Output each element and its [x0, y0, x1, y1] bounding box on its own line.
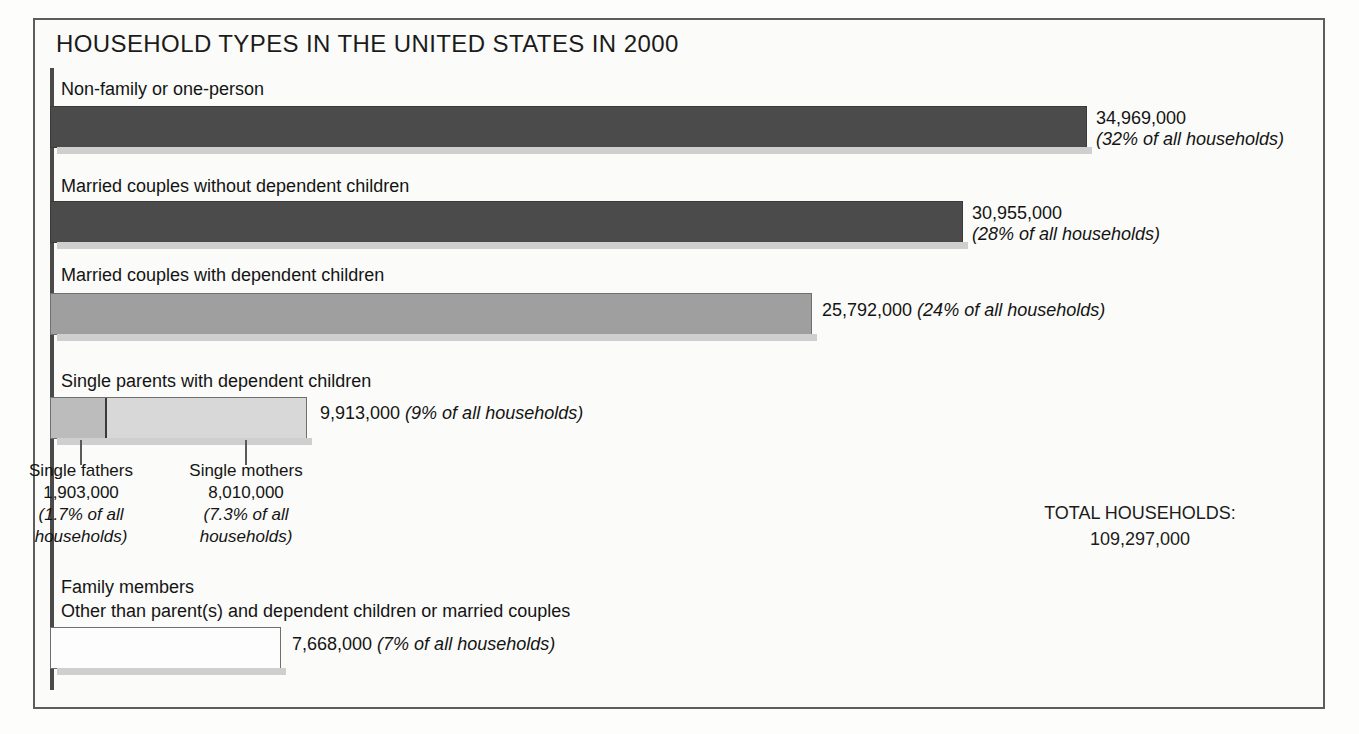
bar-value-number-married-with: 25,792,000 [822, 300, 912, 320]
bar-value-number-family-members: 7,668,000 [292, 634, 372, 654]
sub-label-single-fathers-name: Single fathers [10, 460, 152, 482]
bar-label-married-with: Married couples with dependent children [61, 265, 384, 286]
sub-label-single-mothers-percent-line1: (7.3% of all [175, 504, 317, 526]
bar-non-family [50, 106, 1087, 148]
page-title: HOUSEHOLD TYPES IN THE UNITED STATES IN … [56, 30, 679, 58]
total-households: TOTAL HOUSEHOLDS: 109,297,000 [1010, 500, 1270, 552]
bar-married-without [50, 201, 963, 243]
bar-value-percent-married-with: (24% of all households) [917, 300, 1105, 320]
bar-value-number-non-family: 34,969,000 [1096, 108, 1186, 128]
total-households-label: TOTAL HOUSEHOLDS: [1010, 500, 1270, 526]
bar-value-number-single-parents: 9,913,000 [320, 403, 400, 423]
sub-label-single-fathers-percent-line2: households) [10, 526, 152, 548]
bar-value-married-without: 30,955,000 (28% of all households) [972, 203, 1160, 245]
sub-label-single-mothers: Single mothers 8,010,000 (7.3% of all ho… [175, 460, 317, 548]
bar-single-parents [50, 397, 307, 439]
bar-value-non-family: 34,969,000 (32% of all households) [1096, 108, 1284, 150]
bar-married-with [50, 293, 812, 335]
bar-value-percent-single-parents: (9% of all households) [405, 403, 583, 423]
total-households-value: 109,297,000 [1010, 526, 1270, 552]
bar-value-percent-family-members: (7% of all households) [377, 634, 555, 654]
bar-value-number-married-without: 30,955,000 [972, 203, 1062, 223]
bar-label-non-family: Non-family or one-person [61, 79, 264, 100]
category-axis [50, 68, 54, 690]
bar-family-members [50, 627, 281, 669]
sub-label-single-mothers-value: 8,010,000 [175, 482, 317, 504]
sub-label-single-fathers-percent-line1: (1.7% of all [10, 504, 152, 526]
bar-value-family-members: 7,668,000 (7% of all households) [292, 634, 555, 655]
bar-value-percent-non-family: (32% of all households) [1096, 129, 1284, 150]
bar-value-married-with: 25,792,000 (24% of all households) [822, 300, 1105, 321]
sub-label-single-fathers-value: 1,903,000 [10, 482, 152, 504]
bar-label-married-without: Married couples without dependent childr… [61, 176, 409, 197]
bar-value-single-parents: 9,913,000 (9% of all households) [320, 403, 583, 424]
sub-label-single-mothers-percent-line2: households) [175, 526, 317, 548]
bar-segment-single-fathers [51, 398, 107, 438]
bar-label-single-parents: Single parents with dependent children [61, 371, 371, 392]
bar-sublabel-family-members: Other than parent(s) and dependent child… [61, 601, 570, 622]
sub-label-single-mothers-name: Single mothers [175, 460, 317, 482]
sub-label-single-fathers: Single fathers 1,903,000 (1.7% of all ho… [10, 460, 152, 548]
bar-value-percent-married-without: (28% of all households) [972, 224, 1160, 245]
bar-label-family-members: Family members [61, 577, 194, 598]
chart-figure: HOUSEHOLD TYPES IN THE UNITED STATES IN … [0, 0, 1359, 734]
